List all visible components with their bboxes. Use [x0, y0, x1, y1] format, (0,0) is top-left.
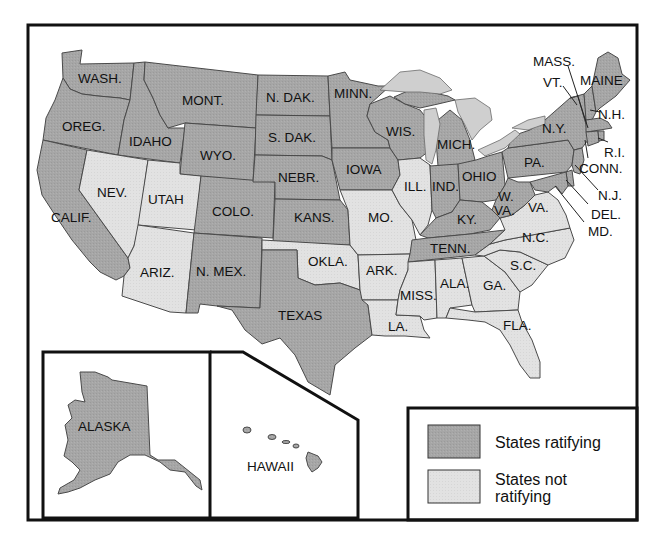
label-pa: PA. — [524, 155, 545, 170]
label-sdak: S. DAK. — [268, 130, 316, 145]
label-ohio: OHIO — [462, 169, 497, 184]
state-conn[interactable] — [586, 131, 599, 146]
legend-swatch-not-ratifying — [428, 470, 480, 503]
label-la: LA. — [388, 319, 408, 334]
label-ala: ALA. — [440, 276, 469, 291]
label-okla: OKLA. — [308, 254, 348, 269]
label-mich: MICH. — [437, 137, 475, 152]
label-nh: N.H. — [598, 107, 625, 122]
label-mont: MONT. — [182, 93, 224, 108]
label-oreg: OREG. — [62, 119, 106, 134]
label-ky: KY. — [457, 212, 477, 227]
lake-superior — [380, 70, 452, 94]
label-tenn: TENN. — [430, 241, 471, 256]
label-iowa: IOWA — [346, 162, 382, 177]
legend: States ratifying States not ratifying — [408, 408, 637, 520]
label-md: MD. — [588, 224, 613, 239]
label-ri: R.I. — [604, 145, 625, 160]
label-ny: N.Y. — [542, 121, 567, 136]
island-oahu — [268, 435, 276, 440]
label-nmex: N. MEX. — [196, 264, 246, 279]
legend-swatch-ratifying — [428, 425, 480, 458]
label-ga: GA. — [483, 278, 506, 293]
label-wva-line1: W. — [498, 189, 514, 204]
label-nc: N.C. — [522, 230, 549, 245]
label-maine: MAINE — [580, 73, 623, 88]
label-idaho: IDAHO — [129, 134, 172, 149]
label-fla: FLA. — [503, 318, 532, 333]
legend-label-ratifying: States ratifying — [495, 434, 601, 451]
label-kans: KANS. — [294, 210, 335, 225]
state-hawaii[interactable] — [306, 452, 322, 472]
label-wis: WIS. — [386, 124, 415, 139]
label-texas: TEXAS — [278, 308, 322, 323]
label-utah: UTAH — [148, 192, 184, 207]
label-ill: ILL. — [404, 179, 427, 194]
label-nebr: NEBR. — [278, 170, 319, 185]
label-wash: WASH. — [78, 71, 122, 86]
label-colo: COLO. — [212, 204, 254, 219]
label-ndak: N. DAK. — [266, 90, 315, 105]
label-hawaii: HAWAII — [247, 459, 294, 474]
label-alaska: ALASKA — [78, 419, 131, 434]
ratification-map: WASH. OREG. CALIF. IDAHO NEV. MONT. WYO.… — [0, 0, 657, 540]
label-nev: NEV. — [97, 185, 127, 200]
label-wva-line2: VA. — [494, 203, 515, 218]
island-maui — [293, 444, 299, 448]
label-miss: MISS. — [400, 288, 437, 303]
legend-label-not-ratifying-line2: ratifying — [495, 488, 551, 505]
label-vt: VT. — [543, 75, 563, 90]
label-mo: MO. — [368, 210, 394, 225]
label-minn: MINN. — [334, 86, 372, 101]
alaska-inset: ALASKA — [43, 352, 210, 518]
island-molokai — [282, 441, 290, 444]
label-ark: ARK. — [366, 263, 398, 278]
label-ind: IND. — [432, 179, 459, 194]
label-wyo: WYO. — [200, 148, 236, 163]
hawaii-inset-frame — [210, 352, 358, 518]
legend-label-not-ratifying-line1: States not — [495, 471, 568, 488]
label-conn: CONN. — [579, 161, 623, 176]
label-del: DEL. — [591, 207, 621, 222]
hawaii-inset: HAWAII — [210, 352, 358, 518]
label-ariz: ARIZ. — [140, 265, 175, 280]
island-kauai — [243, 427, 251, 433]
label-nj: N.J. — [598, 188, 622, 203]
label-calif: CALIF. — [51, 210, 92, 225]
label-va: VA. — [528, 200, 549, 215]
label-mass: MASS. — [533, 54, 575, 69]
label-sc: S.C. — [510, 258, 536, 273]
